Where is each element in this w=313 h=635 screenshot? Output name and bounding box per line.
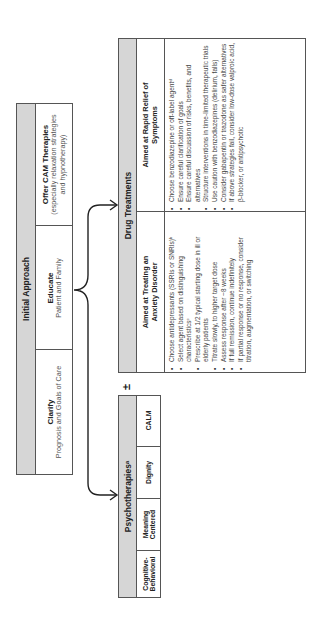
psychotherapy-dignity: Dignity xyxy=(137,447,161,499)
list-item: Titrate slowly, to higher target dose xyxy=(211,216,220,362)
list-item: Consider gabapentin or trazodone as safe… xyxy=(220,42,229,202)
drug-treatments-box: Drug Treatments Aimed at Treating an Anx… xyxy=(118,38,306,373)
rapid-relief-header: Aimed at Rapid Relief of Symptoms xyxy=(137,38,165,212)
psychotherapy-meaning-centered: Meaning Centered xyxy=(137,499,161,551)
list-item: Assess response after ~8 weeks xyxy=(220,216,229,362)
list-item: Prescribe at 1/2 typical starting dose i… xyxy=(194,216,211,362)
psychotherapy-calm: CALM xyxy=(137,395,161,447)
treating-anxiety-list: Choose antidepressants (SSRIs or SNRIs)ᵇ… xyxy=(168,212,254,372)
list-item: Ensure careful discussion of risks, bene… xyxy=(185,42,202,202)
list-item: Use caution with benzodiazepines (deliri… xyxy=(211,42,220,202)
list-item: If full remission, continue indefinitely xyxy=(228,216,237,362)
plus-minus-symbol: ± xyxy=(120,384,132,390)
list-item: Choose antidepressants (SSRIs or SNRIs)ᵇ xyxy=(168,216,177,362)
psychotherapies-box: Psychotherapiesᵃ Cognitive-Behavioral Me… xyxy=(118,395,161,598)
psychotherapies-header: Psychotherapiesᵃ xyxy=(119,396,137,597)
diagram-canvas: Initial Approach Clarify Prognosis and G… xyxy=(0,0,313,635)
rapid-relief-list: Choose benzodiazepine or off-label agent… xyxy=(168,38,245,212)
list-item: Choose benzodiazepine or off-label agent… xyxy=(168,42,177,202)
list-item: Select agent based on distinguishing cha… xyxy=(177,216,194,362)
list-item: Structure interventions in time-limited … xyxy=(202,42,211,202)
psychotherapy-cognitive-behavioral: Cognitive-Behavioral xyxy=(137,551,161,597)
list-item: If above strategies fail, consider low-d… xyxy=(228,42,245,202)
list-item: If partial response or no response, cons… xyxy=(237,216,254,362)
drug-treatments-header: Drug Treatments xyxy=(119,39,137,372)
list-item: Ensure careful clarification of goals xyxy=(177,42,186,202)
treating-anxiety-header: Aimed at Treating an Anxiety Disorder xyxy=(137,212,165,372)
